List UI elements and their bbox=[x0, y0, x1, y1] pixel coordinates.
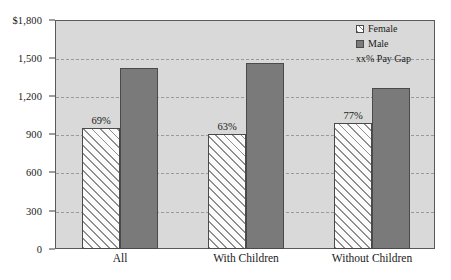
x-tick-label-all: All bbox=[113, 252, 128, 264]
y-tick-label-1500: 1,500 bbox=[18, 53, 42, 64]
bar-female-all[interactable] bbox=[82, 128, 120, 249]
legend-label-female: Female bbox=[368, 22, 397, 35]
bar-male-with-children[interactable] bbox=[246, 63, 284, 249]
y-tick-label-300: 300 bbox=[26, 206, 42, 217]
data-label-with-children: 63% bbox=[217, 121, 236, 132]
legend-note-pay-gap: xx% Pay Gap bbox=[356, 52, 432, 65]
x-tick-label-with-children: With Children bbox=[213, 252, 279, 264]
legend-item-male[interactable]: Male bbox=[356, 37, 432, 50]
bar-female-without-children[interactable] bbox=[334, 123, 372, 249]
legend-swatch-male-icon bbox=[356, 40, 364, 48]
data-label-all: 69% bbox=[91, 115, 110, 126]
bar-female-with-children[interactable] bbox=[208, 134, 246, 249]
y-tick-label-1800: $1,800 bbox=[13, 15, 42, 26]
legend-swatch-female-icon bbox=[356, 25, 364, 33]
y-tick-label-1200: 1,200 bbox=[18, 91, 42, 102]
legend-item-female[interactable]: Female bbox=[356, 22, 432, 35]
x-axis: All With Children Without Children bbox=[55, 252, 435, 274]
y-tick-label-0: 0 bbox=[37, 244, 42, 255]
pay-gap-bar-chart: $1,800 1,500 1,200 900 600 300 0 69% 63%… bbox=[0, 0, 451, 280]
bar-male-without-children[interactable] bbox=[372, 88, 410, 249]
y-tick-label-600: 600 bbox=[26, 167, 42, 178]
y-tick-label-900: 900 bbox=[26, 129, 42, 140]
y-axis: $1,800 1,500 1,200 900 600 300 0 bbox=[0, 0, 50, 280]
legend-label-male: Male bbox=[368, 37, 389, 50]
legend: Female Male xx% Pay Gap bbox=[356, 22, 432, 65]
bar-male-all[interactable] bbox=[120, 68, 158, 249]
data-label-without-children: 77% bbox=[343, 110, 362, 121]
x-tick-label-without-children: Without Children bbox=[332, 252, 412, 264]
